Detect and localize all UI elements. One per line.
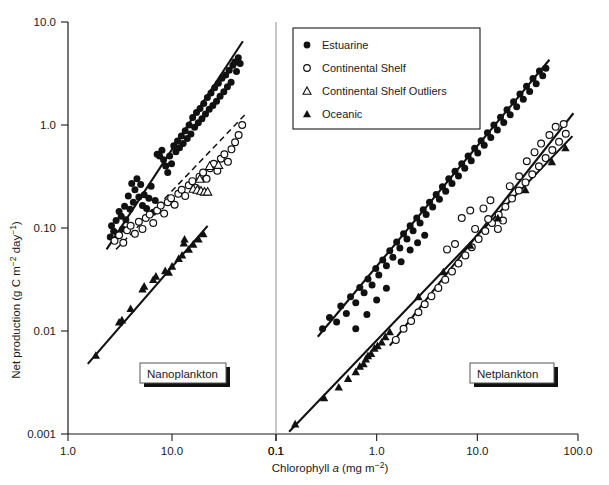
x-tick-label: 1.0	[369, 445, 385, 457]
data-point-estuarine	[319, 325, 326, 332]
data-point-continental-shelf	[221, 151, 228, 158]
data-point-estuarine	[127, 206, 134, 213]
data-point-continental-shelf	[132, 230, 139, 237]
data-point-continental-shelf	[400, 325, 407, 332]
data-point-continental-shelf	[235, 132, 242, 139]
data-point-continental-shelf	[502, 203, 509, 210]
scatter-chart: 10.01.00.100.010.0011.010.00.10.11.010.0…	[0, 0, 609, 485]
data-point-estuarine	[507, 111, 514, 118]
data-point-continental-shelf	[560, 121, 567, 128]
data-point-continental-shelf	[562, 130, 569, 137]
panel-label-netplankton: Netplankton	[470, 363, 558, 387]
x-tick-label: 10.0	[161, 445, 183, 457]
legend-item-label: Continental Shelf Outliers	[322, 85, 447, 97]
x-tick-label: 10.0	[466, 445, 488, 457]
data-point-estuarine	[375, 271, 382, 278]
panel-label-text: Netplankton	[477, 368, 538, 380]
x-axis-title-units: (mg m	[339, 462, 375, 474]
y-tick-label: 10.0	[34, 16, 56, 28]
data-point-estuarine	[398, 258, 405, 265]
data-point-continental-shelf	[485, 216, 492, 223]
data-point-estuarine	[455, 172, 462, 179]
data-point-continental-shelf	[455, 260, 462, 267]
data-point-continental-shelf	[428, 293, 435, 300]
data-point-estuarine	[461, 165, 468, 172]
y-axis-title-sup2: −1	[8, 225, 18, 235]
data-point-continental-shelf	[168, 195, 175, 202]
y-tick-label: 1.0	[40, 119, 56, 131]
data-point-continental-shelf	[506, 183, 513, 190]
data-point-estuarine	[347, 293, 354, 300]
data-point-estuarine	[200, 100, 207, 107]
data-point-estuarine	[474, 149, 481, 156]
data-point-continental-shelf	[523, 158, 530, 165]
data-point-estuarine	[500, 119, 507, 126]
legend-marker-filled-circle-icon	[304, 42, 311, 49]
data-point-continental-shelf	[472, 226, 479, 233]
data-point-continental-shelf	[482, 228, 489, 235]
data-point-estuarine	[396, 244, 403, 251]
data-point-continental-shelf	[442, 276, 449, 283]
data-point-continental-shelf	[139, 226, 146, 233]
data-point-continental-shelf	[549, 147, 556, 154]
y-axis-title-sup1: −2	[8, 256, 18, 266]
data-point-estuarine	[448, 180, 455, 187]
data-point-continental-shelf	[157, 202, 164, 209]
y-axis-title-text: Net production (g C m	[10, 266, 22, 379]
y-axis-title-mid: day	[10, 235, 22, 257]
data-point-estuarine	[122, 216, 129, 223]
data-point-continental-shelf	[171, 201, 178, 208]
data-point-continental-shelf	[509, 195, 516, 202]
data-point-estuarine	[145, 195, 152, 202]
data-point-estuarine	[352, 325, 359, 332]
data-point-estuarine	[389, 254, 396, 261]
data-point-estuarine	[130, 199, 137, 206]
data-point-continental-shelf	[467, 207, 474, 214]
data-point-estuarine	[442, 188, 449, 195]
data-point-continental-shelf	[116, 232, 123, 239]
data-point-continental-shelf	[421, 301, 428, 308]
data-point-estuarine	[383, 285, 390, 292]
data-point-continental-shelf	[182, 192, 189, 199]
data-point-estuarine	[187, 130, 194, 137]
figure-root: 10.01.00.100.010.0011.010.00.10.11.010.0…	[0, 0, 609, 485]
data-point-estuarine	[333, 319, 340, 326]
x-axis-title: Chlorophyll a (mg m−2)	[272, 460, 389, 474]
data-point-estuarine	[393, 239, 400, 246]
data-point-estuarine	[343, 310, 350, 317]
y-tick-label: 0.001	[27, 428, 56, 440]
data-point-estuarine	[407, 247, 414, 254]
data-point-estuarine	[539, 72, 546, 79]
data-point-continental-shelf	[536, 163, 543, 170]
data-point-continental-shelf	[546, 132, 553, 139]
data-point-estuarine	[237, 60, 244, 67]
data-point-estuarine	[468, 157, 475, 164]
data-point-estuarine	[421, 232, 428, 239]
data-point-continental-shelf	[135, 218, 142, 225]
data-point-continental-shelf	[444, 246, 451, 253]
data-point-continental-shelf	[225, 158, 232, 165]
data-point-continental-shelf	[515, 187, 522, 194]
data-point-continental-shelf	[487, 197, 494, 204]
data-point-continental-shelf	[200, 169, 207, 176]
data-point-estuarine	[158, 147, 165, 154]
data-point-continental-shelf	[189, 178, 196, 185]
data-point-continental-shelf	[538, 140, 545, 147]
data-point-continental-shelf	[449, 268, 456, 275]
data-point-continental-shelf	[392, 336, 399, 343]
legend-item-label: Continental Shelf	[322, 62, 407, 74]
data-point-estuarine	[148, 183, 155, 190]
data-point-estuarine	[128, 180, 135, 187]
data-point-estuarine	[373, 296, 380, 303]
data-point-estuarine	[494, 126, 501, 133]
legend: EstuarineContinental ShelfContinental Sh…	[293, 28, 480, 129]
data-point-continental-shelf	[531, 149, 538, 156]
data-point-estuarine	[414, 239, 421, 246]
panel-label-text: Nanoplankton	[147, 368, 218, 380]
svg-text:Chlorophyll a (mg m−2): Chlorophyll a (mg m−2)	[272, 460, 389, 474]
x-axis-title-sup: −2	[375, 460, 385, 470]
data-point-continental-shelf	[239, 122, 246, 129]
data-point-continental-shelf	[127, 222, 134, 229]
data-point-estuarine	[429, 203, 436, 210]
data-point-estuarine	[436, 196, 443, 203]
